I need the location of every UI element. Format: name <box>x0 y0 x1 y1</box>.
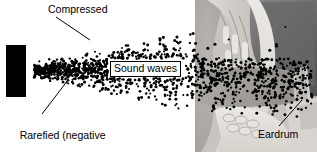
rarefied-leader-line <box>42 80 68 114</box>
label-eardrum: Eardrum <box>258 128 298 140</box>
sound-wave-eardrum-diagram: Compressed Rarefied (negative pressure) … <box>0 0 317 152</box>
label-compressed: Compressed <box>48 3 108 15</box>
label-rarefied: Rarefied (negative pressure) <box>8 117 105 152</box>
loudspeaker-icon <box>6 45 34 97</box>
ear-canal-cross-section <box>195 0 317 152</box>
compressed-leader-line <box>56 17 90 40</box>
label-rarefied-line1: Rarefied (negative <box>20 129 106 141</box>
label-sound-waves: Sound waves <box>110 61 181 77</box>
